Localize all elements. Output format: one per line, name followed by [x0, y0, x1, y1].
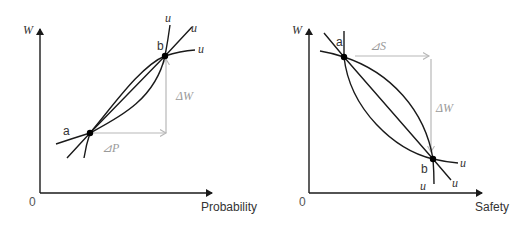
- right-curve-label-linear: u: [452, 176, 458, 190]
- left-curve-label-convex: u: [165, 11, 171, 25]
- right-concave-curve: [320, 51, 434, 184]
- right-delta-s-label: ⊿S: [370, 39, 386, 53]
- right-point-a-label: a: [336, 35, 343, 49]
- left-y-axis-label: W: [23, 23, 34, 37]
- left-delta-p-label: ⊿P: [102, 141, 120, 155]
- left-origin-label: 0: [29, 195, 36, 209]
- right-point-b-label: b: [421, 162, 428, 176]
- left-x-axis-label: Probability: [201, 200, 257, 214]
- left-point-a: [87, 130, 93, 136]
- diagram-canvas: W 0 Probability a b u u u ⊿P ΔW W 0 Safe…: [0, 0, 528, 229]
- left-delta-w-label: ΔW: [175, 89, 194, 103]
- left-linear-curve: [67, 27, 192, 158]
- right-y-axis-label: W: [292, 23, 303, 37]
- left-curve-label-linear: u: [191, 21, 197, 35]
- right-point-b: [430, 156, 436, 162]
- right-diagram: W 0 Safety a b u u u ⊿S ΔW: [292, 23, 509, 214]
- right-point-a: [341, 54, 347, 60]
- left-point-b: [162, 53, 168, 59]
- right-x-axis-label: Safety: [475, 200, 509, 214]
- left-diagram: W 0 Probability a b u u u ⊿P ΔW: [23, 11, 257, 214]
- right-delta-w-label: ΔW: [435, 101, 454, 115]
- right-curve-label-convex: u: [460, 156, 466, 170]
- right-convex-curve: [344, 31, 458, 163]
- left-point-a-label: a: [63, 124, 70, 138]
- left-curve-label-concave: u: [198, 42, 204, 56]
- right-origin-label: 0: [299, 195, 306, 209]
- left-point-b-label: b: [157, 39, 164, 53]
- right-curve-label-concave: u: [420, 179, 426, 193]
